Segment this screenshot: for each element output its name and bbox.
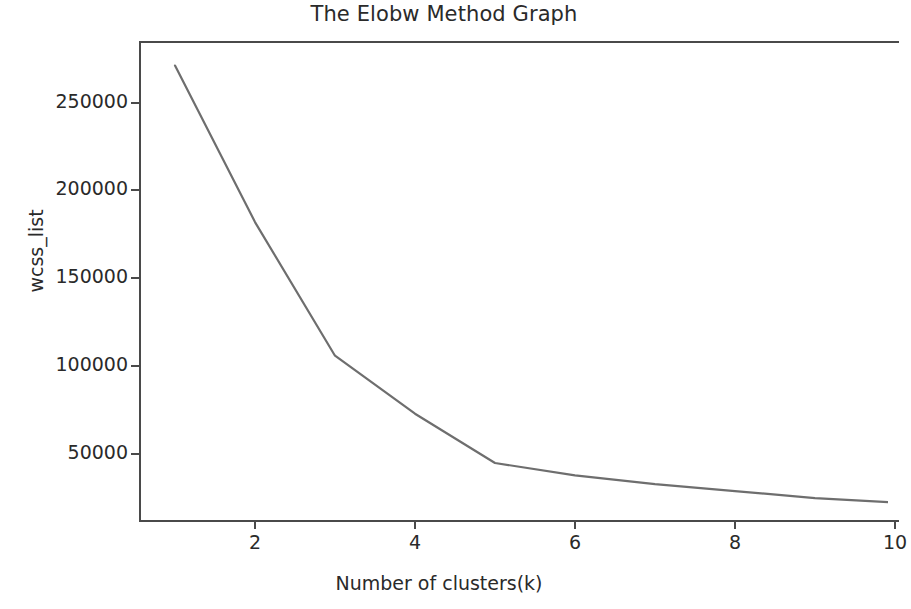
x-tick-label: 4 (385, 531, 445, 553)
x-tick-mark (734, 521, 736, 529)
y-axis-label: wcss_list (25, 191, 47, 311)
x-tick-label: 6 (545, 531, 605, 553)
x-axis-label: Number of clusters(k) (139, 572, 739, 594)
x-tick-mark (574, 521, 576, 529)
x-tick-label: 8 (705, 531, 765, 553)
x-tick-label: 2 (225, 531, 285, 553)
x-tick-mark (414, 521, 416, 529)
x-tick-mark (254, 521, 256, 529)
x-tick-label: 10 (865, 531, 911, 553)
x-tick-mark (894, 521, 896, 529)
